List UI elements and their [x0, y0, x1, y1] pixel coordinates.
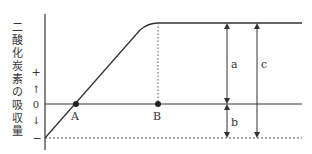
- ylabel-char: 二: [12, 21, 23, 34]
- ylabel-char: 吸: [12, 99, 23, 112]
- up-arrow-icon: ↑: [32, 84, 40, 95]
- minus-mark: −: [32, 132, 41, 145]
- ylabel-char: 素: [12, 73, 23, 86]
- ylabel-char: の: [12, 86, 23, 99]
- plus-mark: +: [31, 66, 40, 79]
- zero-mark: 0: [33, 99, 39, 110]
- co2-absorption-diagram: a b c A B + ↑ 0 ↓ − 二 酸 化 炭 素 の 吸 収 量: [0, 0, 312, 154]
- ylabel-char: 収: [12, 112, 23, 125]
- label-point-a: A: [70, 110, 80, 123]
- ylabel-char: 酸: [12, 33, 23, 47]
- y-axis-label: 二 酸 化 炭 素 の 吸 収 量: [12, 21, 23, 138]
- ylabel-char: 量: [12, 125, 23, 138]
- label-c: c: [261, 58, 267, 71]
- label-b: b: [231, 116, 238, 129]
- ylabel-char: 化: [12, 46, 23, 60]
- ylabel-char: 炭: [12, 60, 23, 73]
- absorption-curve: [45, 23, 302, 138]
- label-point-b: B: [153, 110, 161, 123]
- point-a-marker: [73, 101, 79, 107]
- label-a: a: [231, 58, 238, 71]
- down-arrow-icon: ↓: [32, 115, 40, 126]
- point-b-marker: [155, 101, 161, 107]
